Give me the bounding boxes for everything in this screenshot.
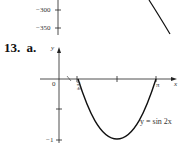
x-axis-label: x [174, 81, 177, 88]
origin-label: 0 [52, 81, 56, 88]
x-tick-label-pi: π [156, 82, 160, 89]
curve-label: y = sin 2x [140, 118, 172, 126]
y-tick-label-minus-1: −1 [46, 137, 53, 143]
sin-2x-curve [78, 79, 156, 139]
top-curve [149, 0, 170, 34]
problem-part: a. [27, 40, 37, 55]
problem-number: 13. [4, 40, 20, 55]
x-tick-label-pi-over-4: π/4 [76, 82, 82, 90]
axis-break-mark [67, 76, 71, 81]
y-axis-label: y [51, 45, 54, 52]
top-tick-label-350: −350 [36, 25, 50, 32]
problem-label: 13. a. [4, 40, 36, 56]
top-tick-label-300: −300 [36, 7, 50, 14]
y-axis-arrow-icon [57, 47, 61, 53]
